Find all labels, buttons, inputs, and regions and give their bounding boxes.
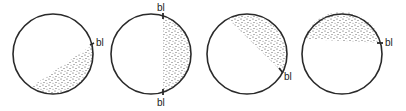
stippled-region <box>228 15 286 72</box>
panel-3: bl <box>207 14 292 94</box>
stippled-region <box>304 12 381 43</box>
panel-4: bl <box>302 12 393 94</box>
bl-label-top: bl <box>157 2 165 13</box>
bl-label: bl <box>284 71 292 82</box>
diagram-canvas: bl bl bl bl bl <box>0 0 406 111</box>
stippled-region <box>31 45 93 94</box>
diagram-svg: bl bl bl bl bl <box>0 0 406 111</box>
panel-2: bl bl <box>111 2 191 108</box>
bl-label: bl <box>385 37 393 48</box>
stippled-region <box>163 16 191 92</box>
panel-1: bl <box>13 14 104 94</box>
bl-label-bottom: bl <box>157 97 165 108</box>
blastopore-lip-marker <box>90 43 94 45</box>
bl-label: bl <box>96 37 104 48</box>
